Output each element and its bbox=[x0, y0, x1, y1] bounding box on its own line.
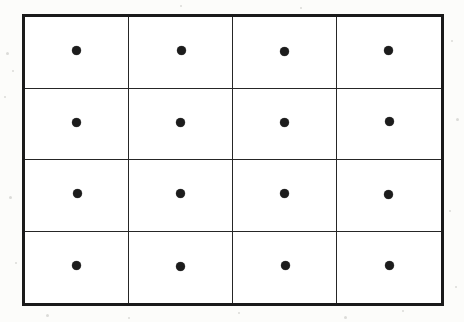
grid-cell-r4c3 bbox=[233, 232, 337, 304]
dot-marker-r3c3 bbox=[280, 189, 289, 198]
grid-cell-r3c1 bbox=[25, 160, 129, 232]
grid-cell-r4c1 bbox=[25, 232, 129, 304]
grid-cell-r2c3 bbox=[233, 89, 337, 161]
grid-cell-r4c4 bbox=[337, 232, 441, 304]
scan-speck bbox=[300, 7, 302, 9]
grid-cell-r2c1 bbox=[25, 89, 129, 161]
dot-marker-r4c4 bbox=[385, 261, 394, 270]
dot-marker-r1c4 bbox=[384, 46, 393, 55]
dot-marker-r4c2 bbox=[176, 262, 185, 271]
scan-speck bbox=[12, 70, 14, 72]
dot-marker-r1c3 bbox=[280, 47, 289, 56]
dot-marker-r4c3 bbox=[281, 261, 290, 270]
dot-marker-r3c2 bbox=[176, 189, 185, 198]
dot-marker-r2c3 bbox=[280, 118, 289, 127]
grid-cell-r1c2 bbox=[129, 17, 233, 89]
grid-cell-r1c3 bbox=[233, 17, 337, 89]
dot-marker-r2c1 bbox=[72, 118, 81, 127]
dot-marker-r4c1 bbox=[72, 261, 81, 270]
grid-cell-r2c2 bbox=[129, 89, 233, 161]
grid-cell-r4c2 bbox=[129, 232, 233, 304]
grid-cell-r2c4 bbox=[337, 89, 441, 161]
dot-marker-r2c4 bbox=[385, 117, 394, 126]
grid-cell-r3c4 bbox=[337, 160, 441, 232]
grid-cell-r3c3 bbox=[233, 160, 337, 232]
scan-speck bbox=[9, 196, 12, 199]
scan-speck bbox=[449, 210, 451, 212]
scan-speck bbox=[6, 52, 9, 55]
dot-marker-r3c4 bbox=[384, 190, 393, 199]
scan-speck bbox=[180, 5, 182, 7]
dot-marker-r3c1 bbox=[73, 189, 82, 198]
grid-cell-r3c2 bbox=[129, 160, 233, 232]
scan-speck bbox=[46, 314, 49, 317]
scan-speck bbox=[456, 118, 459, 121]
scanned-page bbox=[0, 0, 464, 322]
scan-speck bbox=[451, 40, 453, 42]
scan-speck bbox=[128, 317, 130, 319]
grid-cell-r1c4 bbox=[337, 17, 441, 89]
dot-marker-r2c2 bbox=[176, 118, 185, 127]
scan-speck bbox=[402, 310, 404, 312]
dot-marker-r1c2 bbox=[177, 46, 186, 55]
scan-speck bbox=[238, 312, 240, 314]
grid-cell-r1c1 bbox=[25, 17, 129, 89]
dot-grid-figure bbox=[22, 14, 444, 306]
scan-speck bbox=[344, 316, 347, 319]
scan-speck bbox=[15, 262, 17, 264]
dot-marker-r1c1 bbox=[72, 46, 81, 55]
scan-speck bbox=[455, 286, 457, 288]
scan-speck bbox=[4, 96, 6, 98]
